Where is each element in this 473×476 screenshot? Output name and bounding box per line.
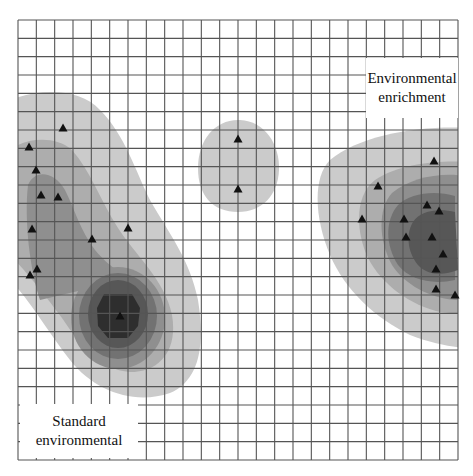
label-standard-line2: environmental [20,431,138,450]
label-enrichment-line1: Environmental [366,69,458,88]
cluster-standard [10,92,201,397]
density-layers [10,92,470,397]
label-enrichment-line2: enrichment [366,88,458,107]
label-environmental-enrichment: Environmental enrichment [366,58,458,118]
label-standard-line1: Standard [20,412,138,431]
label-standard-environmental: Standard environmental [20,404,138,458]
cluster-enrichment [318,127,470,348]
